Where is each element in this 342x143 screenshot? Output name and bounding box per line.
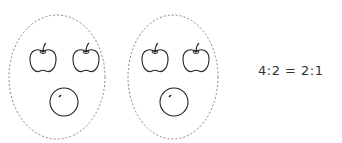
ratio-equation: 4:2 = 2:1 <box>258 63 324 78</box>
orange-icon <box>50 88 78 116</box>
group-1-boundary <box>9 15 105 139</box>
group-2 <box>128 15 218 139</box>
apple-icon <box>183 43 209 72</box>
group-1 <box>9 15 105 139</box>
group-2-boundary <box>128 15 218 139</box>
apple-icon <box>142 43 168 72</box>
orange-icon <box>160 88 188 116</box>
apple-icon <box>30 43 56 72</box>
apple-icon <box>73 43 99 72</box>
